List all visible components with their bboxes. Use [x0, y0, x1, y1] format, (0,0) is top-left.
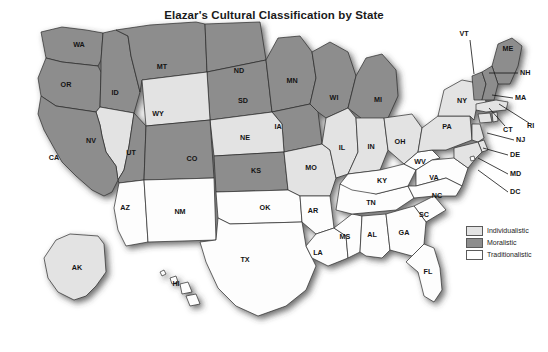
legend-swatch-moralistic — [466, 238, 483, 248]
state-az[interactable]: Arizona — [114, 180, 148, 246]
state-label-az: AZ — [120, 203, 130, 212]
state-label-id: ID — [111, 88, 118, 97]
leader-line-ri — [499, 104, 529, 123]
state-label-ct: CT — [503, 125, 513, 134]
state-label-pa: PA — [442, 122, 451, 131]
legend: Individualistic Moralistic Traditionalis… — [466, 225, 544, 261]
legend-label-traditionalistic: Traditionalistic — [487, 250, 531, 259]
state-label-wi: WI — [330, 93, 339, 102]
states-group: WashingtonOregonIdahoMontanaNorth Dakota… — [38, 22, 522, 316]
state-ar[interactable]: Arkansas — [300, 196, 334, 234]
state-tx[interactable]: Texas — [200, 218, 316, 316]
leader-line-de — [483, 148, 508, 155]
state-label-mt: MT — [157, 62, 168, 71]
state-label-nv: NV — [86, 136, 96, 145]
leader-line-vt — [470, 40, 474, 74]
state-label-sd: SD — [238, 96, 248, 105]
state-label-co: CO — [187, 154, 198, 163]
state-label-wa: WA — [73, 40, 85, 49]
state-label-il: IL — [339, 143, 346, 152]
state-label-md: MD — [510, 169, 521, 178]
state-label-ky: KY — [377, 176, 387, 185]
state-label-fl: FL — [424, 267, 433, 276]
state-label-mn: MN — [286, 76, 297, 85]
legend-item-moralistic[interactable]: Moralistic — [466, 237, 544, 248]
state-label-dc: DC — [510, 187, 520, 196]
state-label-ak: AK — [72, 263, 83, 272]
state-label-ok: OK — [260, 203, 272, 212]
state-ct[interactable]: Connecticut — [478, 113, 492, 123]
state-hi[interactable]: Hawaii — [160, 270, 200, 306]
state-label-ut: UT — [126, 148, 136, 157]
state-label-tn: TN — [366, 198, 376, 207]
state-label-de: DE — [510, 150, 520, 159]
state-label-la: LA — [313, 248, 323, 257]
legend-swatch-individualistic — [466, 226, 483, 236]
state-label-mi: MI — [374, 95, 382, 104]
us-map-svg: WashingtonOregonIdahoMontanaNorth Dakota… — [0, 0, 548, 352]
state-label-hi: HI — [172, 279, 179, 288]
state-label-wy: WY — [152, 109, 164, 118]
state-co[interactable]: Colorado — [144, 120, 214, 180]
state-label-ga: GA — [399, 228, 410, 237]
leader-line-md — [478, 158, 508, 174]
state-label-al: AL — [367, 230, 377, 239]
state-label-nc: NC — [432, 191, 442, 200]
state-label-nm: NM — [174, 207, 185, 216]
state-label-oh: OH — [395, 137, 406, 146]
legend-swatch-traditionalistic — [466, 250, 483, 260]
state-label-ks: KS — [251, 166, 261, 175]
legend-item-traditionalistic[interactable]: Traditionalistic — [466, 249, 544, 260]
state-label-va: VA — [429, 173, 438, 182]
state-label-vt: VT — [459, 29, 469, 38]
state-label-nh: NH — [520, 68, 530, 77]
state-label-or: OR — [61, 80, 73, 89]
state-label-sc: SC — [419, 210, 429, 219]
state-mi[interactable]: Michigan — [348, 54, 398, 122]
state-label-wv: WV — [414, 157, 426, 166]
leader-line-dc — [478, 170, 508, 192]
state-label-in: IN — [367, 142, 374, 151]
legend-item-individualistic[interactable]: Individualistic — [466, 225, 544, 236]
map-page: Elazar's Cultural Classification by Stat… — [0, 0, 548, 352]
state-dc[interactable]: District of Columbia — [470, 156, 475, 161]
state-label-ca: CA — [49, 153, 59, 162]
state-label-ne: NE — [240, 133, 250, 142]
state-label-ny: NY — [457, 96, 467, 105]
state-label-ar: AR — [308, 206, 319, 215]
state-label-me: ME — [503, 44, 514, 53]
leader-line-nj — [487, 133, 514, 140]
state-label-ms: MS — [340, 232, 351, 241]
state-label-ma: MA — [515, 93, 526, 102]
state-label-tx: TX — [240, 255, 249, 264]
state-label-nj: NJ — [516, 135, 525, 144]
map-shadow-group: WashingtonOregonIdahoMontanaNorth Dakota… — [38, 22, 522, 316]
state-label-ia: IA — [274, 122, 281, 131]
state-nj[interactable]: New Jersey — [472, 124, 484, 142]
state-label-mo: MO — [305, 163, 317, 172]
legend-label-individualistic: Individualistic — [487, 226, 529, 235]
legend-label-moralistic: Moralistic — [487, 238, 517, 247]
us-map-figure: WashingtonOregonIdahoMontanaNorth Dakota… — [0, 0, 548, 352]
state-label-ri: RI — [527, 121, 534, 130]
state-label-nd: ND — [234, 66, 244, 75]
state-mn[interactable]: Minnesota — [266, 36, 316, 112]
